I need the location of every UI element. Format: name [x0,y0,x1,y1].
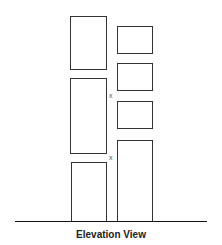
ground-line [15,221,207,222]
elevation-diagram: x x Elevation View [0,0,222,245]
left-panel-bottom-door [71,162,107,221]
right-panel-1 [117,26,153,54]
x-marker-lower: x [109,154,113,161]
right-panel-2 [117,63,153,91]
diagram-caption: Elevation View [0,229,222,240]
right-panel-3 [117,101,153,129]
x-marker-upper: x [109,92,113,99]
left-panel-top [70,16,107,70]
left-panel-middle [70,78,107,154]
right-panel-bottom-door [117,140,153,221]
